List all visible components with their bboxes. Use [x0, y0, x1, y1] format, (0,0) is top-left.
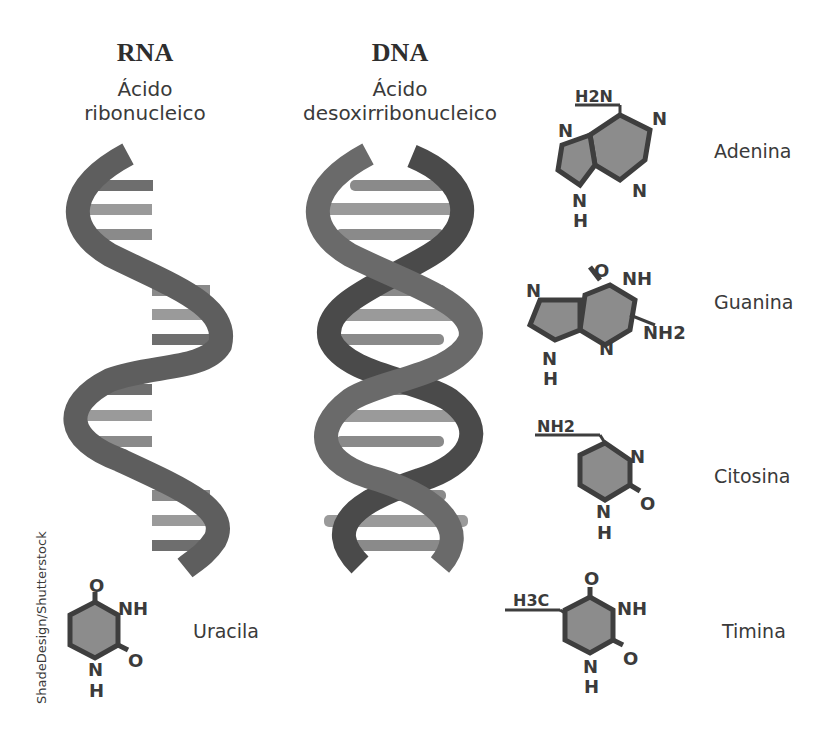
atom-o: O — [128, 650, 143, 671]
atom-n: N — [526, 280, 541, 301]
atom-nh2: NH2 — [537, 417, 575, 436]
guanina-label: Guanina — [714, 291, 793, 313]
atom-h: H — [573, 210, 588, 231]
atom-n: N — [630, 446, 645, 467]
atom-h: H — [584, 676, 599, 697]
atom-n: N — [652, 108, 667, 129]
atom-o: O — [89, 575, 104, 596]
atom-h: H — [597, 522, 612, 543]
adenina-molecule: H2N N N N N H — [540, 85, 680, 235]
atom-o: O — [640, 493, 655, 514]
uracila-molecule: O NH O N H — [55, 570, 185, 710]
atom-n: N — [542, 348, 557, 369]
atom-o: O — [594, 260, 609, 281]
atom-o: O — [623, 648, 638, 669]
atom-n: N — [558, 120, 573, 141]
atom-nh: NH — [617, 598, 647, 619]
atom-h2n: H2N — [575, 87, 613, 106]
atom-n: N — [599, 338, 614, 359]
atom-n: N — [583, 656, 598, 677]
atom-o: O — [584, 568, 599, 589]
citosina-label: Citosina — [714, 465, 790, 487]
uracila-label: Uracila — [193, 620, 259, 642]
atom-n: N — [632, 180, 647, 201]
atom-h: H — [543, 368, 558, 389]
timina-label: Timina — [722, 620, 786, 642]
timina-molecule: H3C O NH O N H — [505, 565, 685, 715]
atom-n: N — [596, 501, 611, 522]
atom-n: N — [88, 659, 103, 680]
atom-nh: NH — [118, 598, 148, 619]
atom-h3c: H3C — [513, 591, 549, 610]
atom-nh: NH — [622, 268, 652, 289]
citosina-molecule: NH2 N O N H — [530, 415, 670, 555]
adenina-label: Adenina — [714, 140, 791, 162]
guanina-molecule: O NH N NH2 N N H — [510, 255, 700, 425]
image-credit: ShadeDesign/Shutterstock — [34, 531, 49, 704]
atom-h: H — [89, 680, 104, 701]
atom-nh2: NH2 — [643, 322, 686, 343]
atom-n: N — [572, 190, 587, 211]
